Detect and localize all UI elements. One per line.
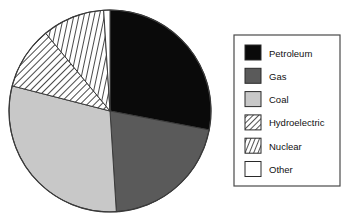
legend-label-coal: Coal xyxy=(269,94,289,105)
legend-swatch-petroleum xyxy=(245,45,261,60)
legend-item-petroleum[interactable]: Petroleum xyxy=(245,45,312,60)
legend-swatch-nuclear xyxy=(245,138,261,153)
legend-swatch-coal xyxy=(245,92,261,107)
legend-label-other: Other xyxy=(269,164,293,175)
pie-slices-group xyxy=(9,10,211,212)
legend-label-petroleum: Petroleum xyxy=(269,48,312,59)
pie-chart-figure: PetroleumGasCoalHydroelectricNuclearOthe… xyxy=(0,0,352,223)
legend-label-hydroelectric: Hydroelectric xyxy=(269,117,325,128)
legend-item-other[interactable]: Other xyxy=(245,162,293,177)
legend-label-nuclear: Nuclear xyxy=(269,141,302,152)
chart-canvas: PetroleumGasCoalHydroelectricNuclearOthe… xyxy=(0,0,352,223)
legend-item-hydroelectric[interactable]: Hydroelectric xyxy=(245,115,325,130)
legend-item-nuclear[interactable]: Nuclear xyxy=(245,138,302,153)
legend-swatch-hydroelectric xyxy=(245,115,261,130)
legend-swatch-other xyxy=(245,162,261,177)
legend-label-gas: Gas xyxy=(269,71,287,82)
legend-swatch-gas xyxy=(245,68,261,83)
chart-legend: PetroleumGasCoalHydroelectricNuclearOthe… xyxy=(234,35,340,186)
